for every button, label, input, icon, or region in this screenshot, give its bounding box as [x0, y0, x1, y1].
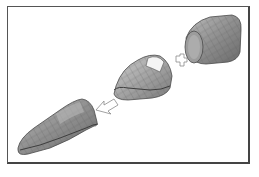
arrow-left-icon — [96, 99, 118, 114]
mid-fuselage-section — [114, 55, 172, 100]
assembled-nose-section — [18, 99, 98, 155]
plus-icon — [176, 54, 187, 66]
fuselage-assembly-diagram — [0, 0, 259, 177]
aft-fuselage-section — [185, 15, 241, 64]
